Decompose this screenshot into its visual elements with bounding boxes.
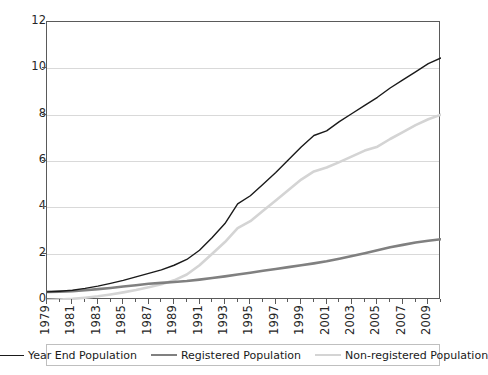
legend-label: Registered Population [181,350,301,361]
x-tick-mark-1989 [173,299,174,304]
x-tick-mark-1991 [199,299,200,304]
x-tick-mark-2001 [326,299,327,304]
x-tick-label-1981: 1981 [65,305,77,335]
x-tick-mark-1987 [148,299,149,304]
x-tick-mark-1979 [46,299,47,304]
x-tick-mark-1993 [224,299,225,304]
legend-item-non-registered-population[interactable]: Non-registered Population [315,350,488,361]
x-tick-mark-1988 [160,299,161,302]
x-tick-label-2007: 2007 [396,305,408,335]
x-tick-mark-1986 [135,299,136,302]
x-tick-label-1993: 1993 [218,305,230,335]
chart-legend: Year End PopulationRegistered Population… [46,344,440,366]
x-tick-mark-1983 [97,299,98,304]
x-tick-label-1987: 1987 [142,305,154,335]
x-tick-mark-1996 [262,299,263,302]
y-tick-label-8: 8 [12,108,46,120]
legend-swatch-icon [0,355,24,356]
x-tick-label-2005: 2005 [370,305,382,335]
legend-swatch-icon [151,354,177,356]
x-tick-mark-1980 [59,299,60,302]
legend-swatch-icon [315,354,341,356]
y-axis: 024681012 [0,0,46,320]
x-tick-label-1989: 1989 [167,305,179,335]
x-axis: 1979198119831985198719891991199319951997… [46,299,440,347]
x-tick-label-1979: 1979 [40,305,52,335]
y-tick-label-10: 10 [12,61,46,73]
x-tick-label-2009: 2009 [421,305,433,335]
series-line-non-registered-population [47,115,441,300]
x-tick-mark-1984 [110,299,111,302]
x-tick-mark-2008 [415,299,416,302]
series-layer [47,22,441,300]
x-tick-mark-1990 [186,299,187,302]
y-tick-label-2: 2 [12,247,46,259]
x-tick-mark-2004 [364,299,365,302]
x-tick-mark-2007 [402,299,403,304]
x-tick-label-2003: 2003 [345,305,357,335]
x-tick-mark-2010 [440,299,441,302]
x-tick-mark-1995 [249,299,250,304]
x-tick-mark-1981 [71,299,72,304]
x-tick-mark-2009 [427,299,428,304]
legend-label: Year End Population [28,350,137,361]
x-tick-mark-1992 [211,299,212,302]
x-tick-mark-2006 [389,299,390,302]
x-tick-label-1991: 1991 [193,305,205,335]
x-tick-mark-1994 [237,299,238,302]
y-tick-label-4: 4 [12,200,46,212]
x-tick-mark-1982 [84,299,85,302]
x-tick-mark-2005 [376,299,377,304]
legend-item-year-end-population[interactable]: Year End Population [0,350,137,361]
x-tick-mark-1998 [287,299,288,302]
y-tick-label-0: 0 [12,293,46,305]
x-tick-label-1999: 1999 [294,305,306,335]
x-tick-mark-1999 [300,299,301,304]
x-tick-label-1995: 1995 [243,305,255,335]
x-tick-mark-1985 [122,299,123,304]
plot-area [46,21,440,299]
x-tick-label-1983: 1983 [91,305,103,335]
y-tick-label-6: 6 [12,154,46,166]
x-tick-label-1997: 1997 [269,305,281,335]
x-tick-mark-1997 [275,299,276,304]
legend-item-registered-population[interactable]: Registered Population [151,350,301,361]
x-tick-label-2001: 2001 [320,305,332,335]
y-tick-label-12: 12 [12,15,46,27]
series-line-year-end-population [47,58,441,292]
x-tick-mark-2000 [313,299,314,302]
x-tick-mark-2003 [351,299,352,304]
x-tick-mark-2002 [338,299,339,302]
legend-label: Non-registered Population [345,350,488,361]
x-tick-label-1985: 1985 [116,305,128,335]
